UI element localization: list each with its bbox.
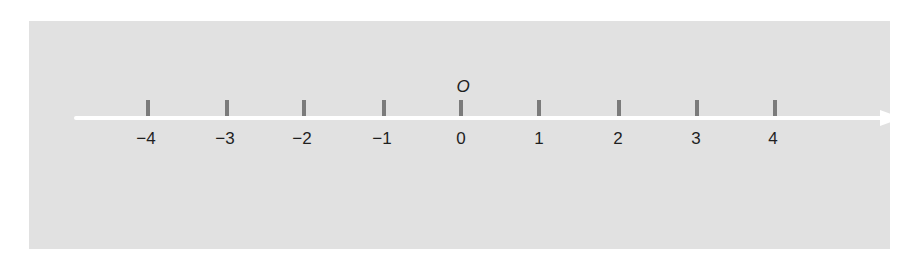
- number-line-axis: [74, 116, 884, 120]
- tick-label: 2: [598, 129, 638, 149]
- tick-label: 1: [519, 129, 559, 149]
- tick-mark: [459, 100, 463, 116]
- tick-label: −2: [282, 129, 322, 149]
- tick-mark: [773, 100, 777, 116]
- tick-mark: [537, 100, 541, 116]
- arrow-right-icon: [880, 110, 902, 126]
- origin-label: O: [453, 77, 473, 97]
- tick-mark: [225, 100, 229, 116]
- tick-label: 0: [441, 129, 481, 149]
- tick-label: −1: [362, 129, 402, 149]
- tick-mark: [382, 100, 386, 116]
- tick-mark: [695, 100, 699, 116]
- tick-label: 4: [753, 129, 793, 149]
- tick-mark: [302, 100, 306, 116]
- tick-mark: [146, 100, 150, 116]
- tick-label: −3: [205, 129, 245, 149]
- number-line-panel: O −4 −3 −2 −1 0 1 2 3 4: [29, 21, 890, 249]
- tick-label: −4: [126, 129, 166, 149]
- tick-label: 3: [676, 129, 716, 149]
- tick-mark: [617, 100, 621, 116]
